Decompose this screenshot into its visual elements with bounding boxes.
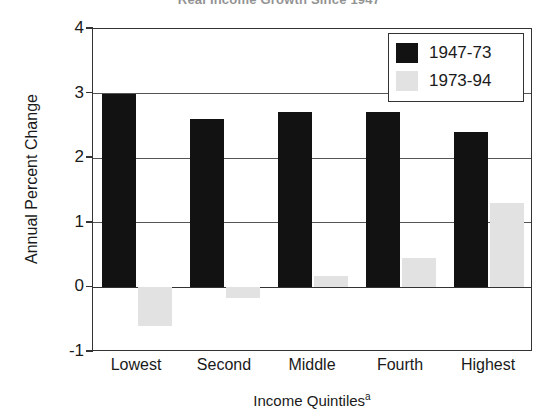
bar-second-1973-94	[226, 287, 260, 298]
bar-lowest-1947-73	[102, 94, 136, 288]
bar-middle-1947-73	[278, 112, 312, 288]
x-tick-label-lowest: Lowest	[111, 356, 162, 374]
legend-swatch-icon	[396, 43, 418, 63]
y-tick-label: 4	[36, 18, 84, 38]
bar-middle-1973-94	[314, 276, 348, 288]
legend-swatch-icon	[396, 71, 418, 91]
legend-item: 1973-94	[396, 67, 516, 95]
x-tick-label-highest: Highest	[461, 356, 515, 374]
x-tick-label-second: Second	[197, 356, 251, 374]
chart-figure: Real Income Growth Since 1947 Annual Per…	[0, 0, 558, 419]
y-tick-label: 0	[36, 276, 84, 296]
legend-label: 1947-73	[429, 43, 491, 63]
bar-highest-1973-94	[490, 203, 524, 287]
x-axis-title: Income Quintilesa	[92, 391, 532, 409]
bar-fourth-1947-73	[366, 112, 400, 288]
chart-title: Real Income Growth Since 1947	[0, 0, 558, 4]
bar-fourth-1973-94	[402, 258, 436, 287]
chart-legend: 1947-731973-94	[388, 33, 524, 102]
bar-lowest-1973-94	[138, 287, 172, 326]
y-tick-label: 1	[36, 212, 84, 232]
y-tick-label: 3	[36, 83, 84, 103]
bar-highest-1947-73	[454, 132, 488, 287]
x-tick-label-fourth: Fourth	[377, 356, 423, 374]
x-axis-title-text: Income Quintiles	[253, 392, 365, 409]
bar-second-1947-73	[190, 119, 224, 287]
y-tick-label: -1	[36, 341, 84, 361]
legend-item: 1947-73	[396, 39, 516, 67]
y-tick-label: 2	[36, 147, 84, 167]
x-tick-label-middle: Middle	[288, 356, 335, 374]
legend-label: 1973-94	[429, 71, 491, 91]
x-axis-title-footnote-marker: a	[365, 391, 371, 402]
